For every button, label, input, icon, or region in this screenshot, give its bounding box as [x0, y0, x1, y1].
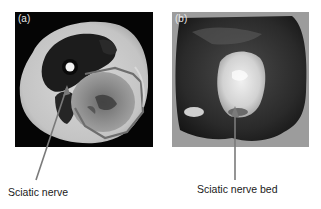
specimen-image: [172, 12, 309, 147]
specimen-panel: (b): [172, 12, 309, 147]
caption-sciatic-nerve: Sciatic nerve: [8, 186, 68, 198]
mri-panel: (a): [15, 12, 153, 147]
panel-label-b: (b): [175, 13, 187, 24]
panel-label-a: (a): [18, 13, 30, 24]
mri-image: [15, 12, 153, 147]
caption-sciatic-nerve-bed: Sciatic nerve bed: [197, 183, 278, 195]
